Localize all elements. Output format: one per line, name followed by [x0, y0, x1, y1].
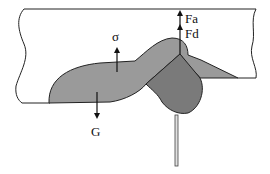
plate-left-break — [16, 9, 26, 103]
fa-label: Fa — [185, 11, 198, 26]
fd-label: Fd — [185, 26, 199, 41]
sigma-label: σ — [112, 29, 119, 44]
filler-wire — [175, 115, 178, 166]
melt-pool-light — [49, 38, 238, 103]
g-label: G — [91, 124, 100, 139]
weld-force-diagram: Fa Fd σ G — [0, 0, 270, 174]
plate-right-break — [251, 9, 256, 78]
